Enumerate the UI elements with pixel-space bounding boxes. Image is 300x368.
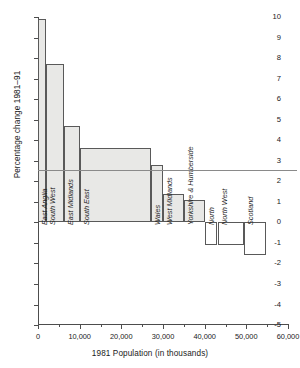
- bar-north: [205, 222, 218, 245]
- x-tick-minor: [101, 324, 102, 327]
- y-tick-label: 6: [255, 95, 281, 103]
- x-tick: [80, 324, 81, 329]
- y-tick: [34, 284, 38, 285]
- x-tick: [288, 324, 289, 329]
- x-tick-label: 40,000: [185, 333, 225, 341]
- x-tick-minor: [184, 324, 185, 327]
- x-tick-label: 50,000: [226, 333, 266, 341]
- x-tick-label: 20,000: [101, 333, 141, 341]
- y-tick: [34, 243, 38, 244]
- y-tick-label: 10: [255, 13, 281, 21]
- region-label-yorkshire-humberside: Yorkshire & Humberside: [187, 147, 194, 226]
- x-tick-label: 10,000: [60, 333, 100, 341]
- region-label-wales: Wales: [154, 205, 161, 225]
- y-tick-label: 8: [255, 54, 281, 62]
- x-tick-minor: [267, 324, 268, 327]
- great-britain-reference-line: [38, 170, 297, 171]
- plot-area: -5-4-3-2-1012345678910 010,00020,00030,0…: [38, 17, 288, 325]
- x-tick-label: 60,000: [268, 333, 300, 341]
- x-tick: [38, 324, 39, 329]
- y-tick-label: -3: [255, 280, 281, 288]
- region-label-west-midlands: West Midlands: [166, 178, 173, 226]
- x-tick-label: 30,000: [143, 333, 183, 341]
- chart-container: Percentage change 1981–91 1981 Populatio…: [0, 0, 300, 368]
- x-tick: [163, 324, 164, 329]
- y-tick-label: 2: [255, 177, 281, 185]
- x-tick-minor: [142, 324, 143, 327]
- region-label-north: North: [208, 207, 215, 225]
- region-label-south-west: South West: [49, 188, 56, 226]
- y-tick-label: 1: [255, 198, 281, 206]
- region-label-scotland: Scotland: [247, 197, 254, 225]
- x-tick-minor: [59, 324, 60, 327]
- y-tick-label: -2: [255, 259, 281, 267]
- y-tick: [34, 305, 38, 306]
- y-axis-title: Percentage change 1981–91: [13, 45, 22, 205]
- region-label-south-east: South East: [83, 190, 90, 226]
- y-tick-label: 7: [255, 75, 281, 83]
- x-tick-minor: [226, 324, 227, 327]
- y-tick: [34, 17, 38, 18]
- x-tick-label: 0: [18, 333, 58, 341]
- x-tick: [121, 324, 122, 329]
- y-tick-label: 3: [255, 157, 281, 165]
- region-label-north-west: North West: [221, 189, 228, 225]
- y-tick-label: -4: [255, 301, 281, 309]
- x-tick: [205, 324, 206, 329]
- bar-scotland: [244, 222, 266, 255]
- y-tick: [34, 263, 38, 264]
- y-tick-label: 4: [255, 136, 281, 144]
- y-tick-label: 5: [255, 116, 281, 124]
- y-tick: [34, 222, 38, 223]
- x-axis-title: 1981 Population (in thousands): [0, 349, 300, 358]
- region-label-east-midlands: East Midlands: [67, 179, 74, 225]
- y-tick-label: 9: [255, 34, 281, 42]
- x-tick: [246, 324, 247, 329]
- bar-north-west: [218, 222, 245, 245]
